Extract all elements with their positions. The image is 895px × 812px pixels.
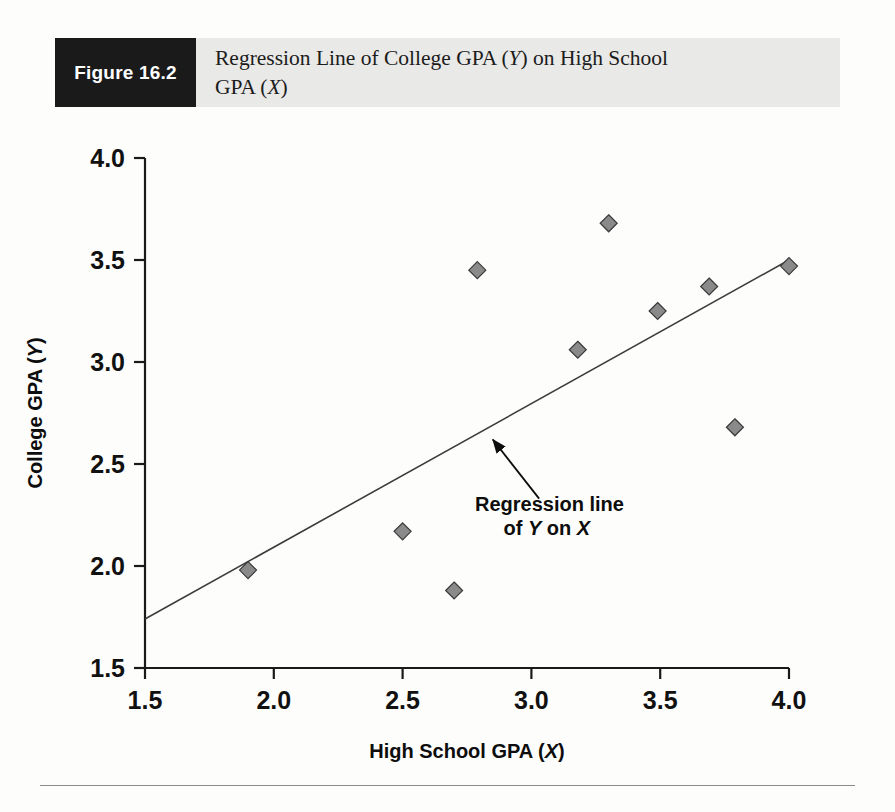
chart-plot-area: 1.52.02.53.03.54.0 1.52.02.53.03.54.0 Re… — [0, 110, 895, 770]
x-axis-title: High School GPA (X) — [369, 740, 565, 762]
data-point-marker — [726, 419, 743, 436]
x-tick-label: 2.5 — [385, 686, 420, 714]
annotation-line-1: Regression line — [475, 493, 624, 515]
scatter-chart-svg: 1.52.02.53.03.54.0 1.52.02.53.03.54.0 Re… — [0, 110, 895, 770]
figure-caption: Regression Line of College GPA (Y) on Hi… — [215, 44, 815, 102]
figure-page: Figure 16.2 Regression Line of College G… — [0, 0, 895, 812]
chart-axes — [145, 158, 789, 668]
y-tick-label: 4.0 — [90, 144, 125, 172]
x-tick-label: 1.5 — [128, 686, 163, 714]
annotation-group: Regression line of Y on X — [475, 440, 624, 540]
y-tick-label: 2.5 — [90, 450, 125, 478]
figure-number-label: Figure 16.2 — [74, 62, 177, 84]
figure-caption-line-1: Regression Line of College GPA (Y) on Hi… — [215, 46, 668, 70]
page-divider-rule — [40, 785, 855, 786]
annotation-arrow — [493, 440, 539, 499]
data-points — [240, 215, 798, 599]
annotation-line-2: of Y on X — [504, 517, 592, 539]
y-axis-ticks: 1.52.02.53.03.54.0 — [90, 144, 145, 682]
regression-line-path — [145, 260, 789, 619]
figure-number-tag: Figure 16.2 — [55, 38, 196, 107]
data-point-marker — [701, 278, 718, 295]
x-tick-label: 4.0 — [772, 686, 807, 714]
y-tick-label: 3.0 — [90, 348, 125, 376]
data-point-marker — [446, 582, 463, 599]
x-axis-ticks: 1.52.02.53.03.54.0 — [128, 668, 807, 714]
regression-line — [145, 260, 789, 619]
y-axis-title: College GPA (Y) — [24, 337, 46, 488]
data-point-marker — [600, 215, 617, 232]
data-point-marker — [781, 258, 798, 275]
data-point-marker — [569, 341, 586, 358]
data-point-marker — [649, 303, 666, 320]
y-tick-label: 2.0 — [90, 552, 125, 580]
y-tick-label: 3.5 — [90, 246, 125, 274]
data-point-marker — [469, 262, 486, 279]
x-tick-label: 2.0 — [256, 686, 291, 714]
x-tick-label: 3.0 — [514, 686, 549, 714]
x-tick-label: 3.5 — [643, 686, 678, 714]
data-point-marker — [394, 523, 411, 540]
figure-caption-line-2: GPA (X) — [215, 75, 288, 99]
y-tick-label: 1.5 — [90, 654, 125, 682]
